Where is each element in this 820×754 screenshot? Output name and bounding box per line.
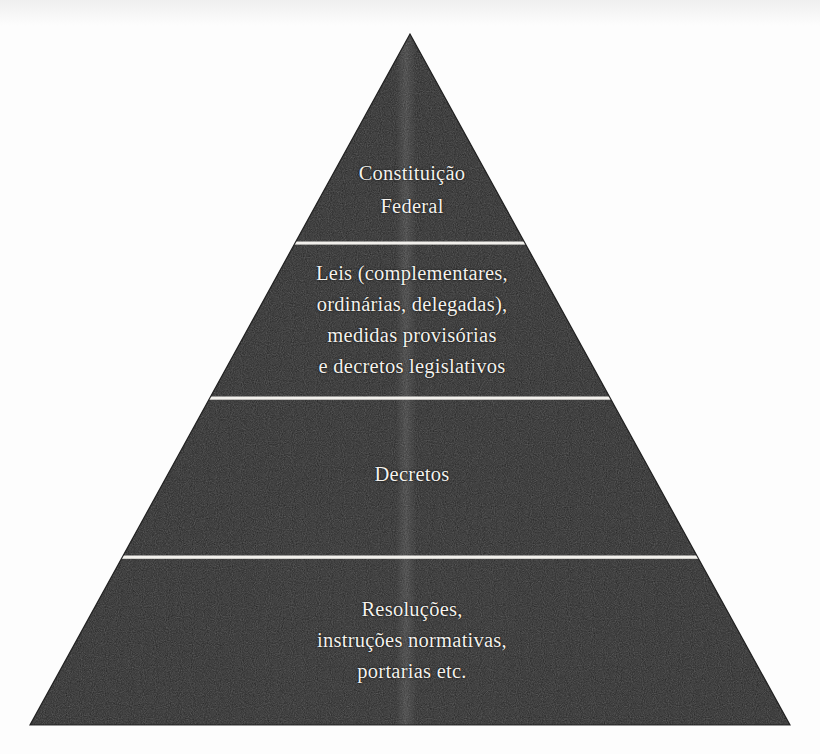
pyramid-figure: Constituição Federal Leis (complementare… [0,0,820,754]
pyramid-texture [0,0,820,754]
pyramid-graphic [0,0,820,754]
tier-divider-1 [0,242,820,245]
tier-divider-2 [0,397,820,400]
pyramid-svg [0,0,820,754]
